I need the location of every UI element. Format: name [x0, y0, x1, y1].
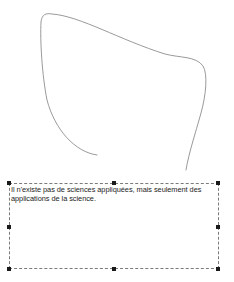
- resize-handle-middle-right[interactable]: [216, 225, 220, 229]
- drawing-canvas[interactable]: Il n'existe pas de sciences appliquées, …: [0, 0, 234, 282]
- resize-handle-bottom-right[interactable]: [216, 267, 220, 271]
- resize-handle-top-center[interactable]: [112, 181, 116, 185]
- resize-handle-middle-left[interactable]: [7, 225, 11, 229]
- resize-handle-bottom-center[interactable]: [112, 267, 116, 271]
- text-box-content[interactable]: Il n'existe pas de sciences appliquées, …: [11, 185, 214, 203]
- curve-path[interactable]: [41, 14, 206, 170]
- resize-handle-top-left[interactable]: [7, 181, 11, 185]
- resize-handle-bottom-left[interactable]: [7, 267, 11, 271]
- resize-handle-top-right[interactable]: [216, 181, 220, 185]
- selected-text-box[interactable]: Il n'existe pas de sciences appliquées, …: [9, 183, 219, 269]
